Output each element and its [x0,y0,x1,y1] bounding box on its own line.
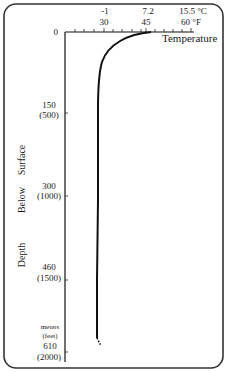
depth-tick-label: 300 [42,181,56,191]
temperature-axis-label: Temperature [162,32,218,44]
chart-canvas: -1 7.2 15.5 °C 30 45 60 °F Temperature [0,0,230,372]
celsius-tick-label: 7.2 [142,6,153,16]
fahrenheit-tick-label: 60 °F [181,17,201,27]
celsius-tick-label: -1 [101,6,109,16]
celsius-tick-label: 15.5 °C [179,6,207,16]
axis-title-below: Below [16,186,27,213]
fahrenheit-tick-label: 30 [100,17,110,27]
fahrenheit-tick-label: 45 [142,17,152,27]
depth-tick-label: 0 [54,27,59,37]
depth-tick-label: 610 [43,341,57,351]
temperature-curve-tail [97,338,101,346]
depth-tick-label-feet: (500) [39,110,59,120]
figure-frame [4,4,223,368]
depth-tick-label-feet: (1500) [37,273,61,283]
depth-tick-label-feet: (2000) [37,352,61,362]
depth-units-label-feet: (feet) [42,332,58,340]
depth-tick-label: 150 [42,100,56,110]
axis-title-surface: Surface [16,144,27,175]
depth-tick-label-feet: (1000) [37,191,61,201]
depth-units-label: meters [41,323,60,331]
temperature-depth-figure: -1 7.2 15.5 °C 30 45 60 °F Temperature [0,0,230,372]
depth-tick-label: 460 [42,262,56,272]
axis-title-depth: Depth [16,243,27,267]
temperature-curve [97,32,151,338]
